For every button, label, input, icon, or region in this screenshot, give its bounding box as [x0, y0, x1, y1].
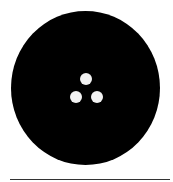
button-disc-icon	[11, 11, 160, 165]
hole-bottom-left	[70, 91, 82, 103]
baseline-divider	[10, 179, 170, 180]
hole-bottom-right	[91, 91, 103, 103]
hole-top	[80, 73, 92, 85]
